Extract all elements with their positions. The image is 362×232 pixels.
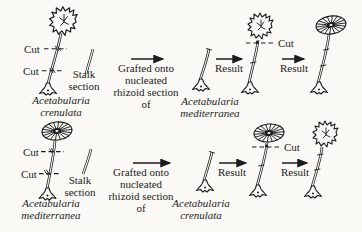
stalk-section-line: section <box>61 80 107 92</box>
species-name-line: mediterranea <box>170 107 250 119</box>
row2-cut-label-1: Cut <box>23 146 39 158</box>
row2-result-cut-label: Cut <box>284 141 300 153</box>
species-name-line: Acetabularia <box>13 94 109 106</box>
row1-cut-label-1: Cut <box>24 43 40 55</box>
graft-caption-line: nucleated <box>104 74 188 86</box>
row1-result-label-2: Result <box>280 62 308 74</box>
acetabularia-grafting-diagram: Cut Cut Stalk section Acetabularia crenu… <box>0 0 362 232</box>
species-name-line: Acetabularia <box>5 197 97 209</box>
stalk-section-line: Stalk <box>57 174 103 186</box>
row2-result2-plant-drawing <box>305 121 339 198</box>
row2-donor-species-label: Acetabularia mediterranea <box>5 197 97 221</box>
row2-stalk-section-drawing <box>83 149 91 174</box>
row2-result-label-1: Result <box>218 166 246 178</box>
row1-result2-plant-drawing <box>311 14 348 94</box>
row1-host-rhizoid-drawing <box>193 49 212 92</box>
graft-caption-line: Grafted onto <box>99 166 183 178</box>
species-name-line: crenulata <box>13 106 109 118</box>
row2-host-species-label: Acetabularia crenulata <box>163 197 239 221</box>
row1-donor-species-label: Acetabularia crenulata <box>13 94 109 118</box>
row1-host-species-label: Acetabularia mediterranea <box>170 95 250 119</box>
stalk-section-line: Stalk <box>61 68 107 80</box>
row1-stalk-section-label: Stalk section <box>61 68 107 92</box>
graft-caption-line: Grafted onto <box>104 62 188 74</box>
species-name-line: Acetabularia <box>170 95 250 107</box>
species-name-line: mediterranea <box>5 209 97 221</box>
row1-result1-plant-drawing <box>242 13 274 94</box>
row2-result-label-2: Result <box>281 166 309 178</box>
row2-result1-plant-drawing <box>250 123 285 197</box>
row1-result-cut-label: Cut <box>278 37 294 49</box>
species-name-line: Acetabularia <box>163 197 239 209</box>
row2-cut-label-2: Cut <box>21 168 37 180</box>
row1-cut-label-2: Cut <box>23 65 39 77</box>
species-name-line: crenulata <box>163 209 239 221</box>
row1-result-label-1: Result <box>215 62 243 74</box>
row2-host-rhizoid-drawing <box>197 152 215 193</box>
graft-caption-line: nucleated <box>99 178 183 190</box>
row2-stalk-section-label: Stalk section <box>57 174 103 198</box>
